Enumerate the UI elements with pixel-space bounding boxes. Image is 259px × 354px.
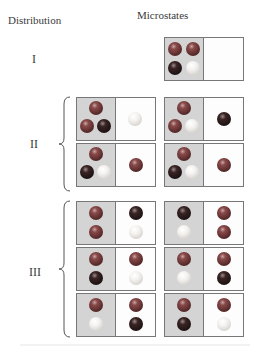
right-compartment: [116, 144, 155, 186]
ball-red: [177, 298, 191, 312]
left-compartment: [77, 144, 116, 186]
ball-red: [89, 101, 103, 115]
ball-white: [129, 225, 143, 239]
ball-white: [177, 271, 191, 285]
ball-white: [129, 271, 143, 285]
microstate-box: [164, 143, 244, 187]
ball-dark: [129, 206, 143, 220]
left-compartment: [165, 144, 204, 186]
ball-red: [177, 252, 191, 266]
left-compartment: [165, 98, 204, 140]
right-compartment: [204, 248, 243, 290]
ball-dark: [177, 317, 191, 331]
right-compartment: [204, 98, 243, 140]
ball-red: [89, 298, 103, 312]
left-compartment: [165, 294, 204, 336]
ball-red: [89, 225, 103, 239]
ball-red: [217, 225, 231, 239]
distribution-label-ii: II: [30, 137, 38, 152]
ball-white: [186, 61, 200, 75]
right-compartment: [116, 248, 155, 290]
ball-dark: [89, 271, 103, 285]
ball-red: [177, 147, 191, 161]
right-compartment: [204, 38, 243, 80]
ball-dark: [217, 112, 231, 126]
right-compartment: [116, 202, 155, 244]
divider: [20, 344, 250, 346]
ball-dark: [168, 165, 182, 179]
ball-dark: [177, 206, 191, 220]
microstates-header: Microstates: [137, 9, 188, 21]
ball-red: [89, 206, 103, 220]
ball-white: [97, 165, 111, 179]
left-compartment: [77, 294, 116, 336]
ball-white: [217, 317, 231, 331]
brace-iii: [58, 200, 72, 338]
right-compartment: [204, 144, 243, 186]
ball-white: [185, 119, 199, 133]
ball-red: [89, 252, 103, 266]
ball-red: [177, 101, 191, 115]
microstate-box: [76, 247, 156, 291]
left-compartment: [165, 202, 204, 244]
ball-red: [217, 206, 231, 220]
microstate-box: [76, 97, 156, 141]
right-compartment: [116, 294, 155, 336]
right-compartment: [204, 294, 243, 336]
left-compartment: [77, 98, 116, 140]
brace-ii: [58, 96, 72, 192]
right-compartment: [204, 202, 243, 244]
ball-white: [185, 165, 199, 179]
microstate-box: [164, 97, 244, 141]
distribution-label-i: I: [32, 52, 36, 67]
left-compartment: [77, 248, 116, 290]
ball-red: [168, 42, 182, 56]
left-compartment: [77, 202, 116, 244]
ball-red: [89, 147, 103, 161]
microstate-box: [164, 201, 244, 245]
microstate-box: [164, 37, 244, 81]
right-compartment: [116, 98, 155, 140]
left-compartment: [165, 248, 204, 290]
ball-red: [217, 298, 231, 312]
left-compartment: [165, 38, 204, 80]
ball-dark: [168, 61, 182, 75]
ball-red: [129, 298, 143, 312]
ball-red: [217, 252, 231, 266]
ball-dark: [129, 317, 143, 331]
ball-red: [129, 252, 143, 266]
ball-red: [168, 119, 182, 133]
distribution-header: Distribution: [8, 14, 61, 26]
ball-dark: [97, 119, 111, 133]
ball-dark: [217, 271, 231, 285]
ball-white: [89, 317, 103, 331]
microstate-box: [76, 293, 156, 337]
distribution-label-iii: III: [29, 265, 41, 280]
ball-white: [177, 225, 191, 239]
ball-red: [80, 119, 94, 133]
ball-dark: [80, 165, 94, 179]
microstate-box: [76, 143, 156, 187]
microstate-box: [164, 247, 244, 291]
ball-white: [128, 112, 142, 126]
microstate-box: [164, 293, 244, 337]
ball-red: [217, 158, 231, 172]
microstate-box: [76, 201, 156, 245]
ball-red: [186, 42, 200, 56]
ball-red: [129, 158, 143, 172]
